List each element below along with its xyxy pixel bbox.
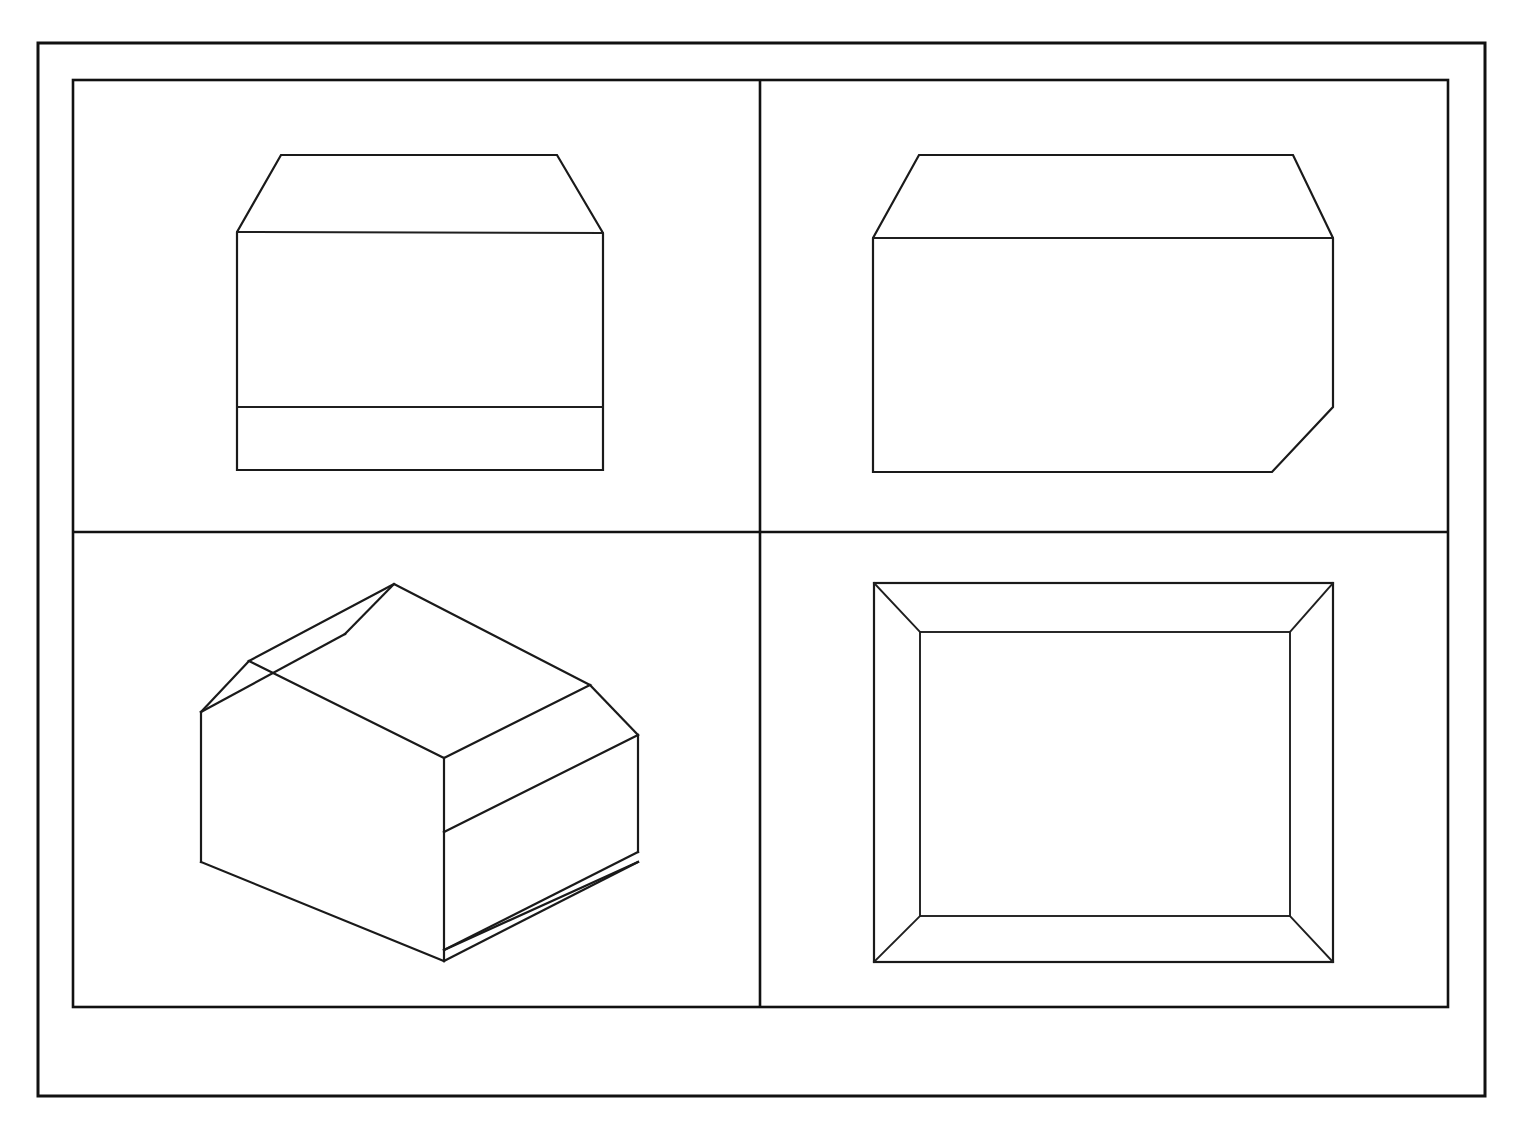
panel-side-view [873,155,1333,472]
panel-top-view [874,583,1333,962]
front-view-face [237,155,603,470]
panel-front-view [237,155,603,470]
technical-drawing-canvas [0,0,1519,1139]
top-view-face [874,583,1333,962]
front-view-chamfer-edge-line [237,232,603,233]
side-view-face [873,155,1333,472]
drawing-sheet [0,0,1519,1139]
